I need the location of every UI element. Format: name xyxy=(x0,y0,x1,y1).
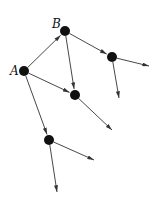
edge-arrow-b-c xyxy=(69,33,106,54)
directed-graph-diagram: AB xyxy=(0,0,162,205)
nodes-layer xyxy=(19,26,117,145)
edge-arrow-b-d xyxy=(66,36,74,89)
edge-arrow-d-out7 xyxy=(79,98,112,130)
node-e xyxy=(44,135,54,145)
edges-layer xyxy=(26,33,149,192)
node-c xyxy=(107,52,117,62)
edge-arrow-e-out9 xyxy=(50,145,57,192)
node-d xyxy=(70,90,80,100)
edge-arrow-c-out6 xyxy=(113,62,119,98)
node-label-b: B xyxy=(51,17,61,31)
edge-arrow-a-b xyxy=(28,35,61,67)
node-a xyxy=(19,66,29,76)
edge-arrow-a-d xyxy=(29,73,70,92)
edge-arrow-c-out5 xyxy=(117,58,149,66)
node-b xyxy=(60,26,70,36)
labels-layer: AB xyxy=(9,17,61,78)
edge-arrow-a-e xyxy=(26,76,47,135)
node-label-a: A xyxy=(9,64,19,78)
edge-arrow-e-out8 xyxy=(54,142,94,160)
